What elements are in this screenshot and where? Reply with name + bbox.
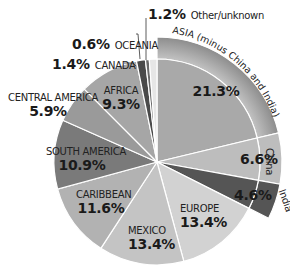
label-central-america: CENTRAL AMERICA 5.9% [8, 93, 88, 118]
south-america-name: SOUTH AMERICA [46, 147, 118, 157]
label-asia: 21.3% [188, 84, 244, 98]
asia-pct: 21.3% [188, 84, 244, 98]
oceania-name: OCEANIA [115, 40, 158, 51]
oceania-pct: 0.6% [72, 36, 110, 52]
label-oceania: 0.6% OCEANIA [72, 36, 158, 52]
south-america-pct: 10.9% [46, 158, 118, 172]
caribbean-pct: 11.6% [76, 201, 126, 215]
other-name: Other/unknown [191, 10, 264, 21]
china-name: China [264, 148, 274, 175]
label-canada: 1.4% CANADA [52, 56, 135, 72]
label-mexico: MEXICO 13.4% [128, 226, 175, 251]
label-caribbean: CARIBBEAN 11.6% [76, 190, 126, 215]
label-south-america: SOUTH AMERICA 10.9% [46, 147, 118, 172]
caribbean-name: CARIBBEAN [76, 190, 126, 200]
india-pct: 4.6% [234, 187, 272, 203]
label-europe: EUROPE 13.4% [180, 204, 227, 229]
mexico-name: MEXICO [128, 226, 175, 236]
canada-name: CANADA [95, 60, 136, 71]
europe-name: EUROPE [180, 204, 227, 214]
mexico-pct: 13.4% [128, 237, 175, 251]
africa-name: AFRICA [100, 86, 142, 96]
label-africa: AFRICA 9.3% [100, 86, 142, 111]
label-other: 1.2% Other/unknown [148, 6, 264, 22]
label-india-pct: 4.6% [234, 187, 272, 203]
europe-pct: 13.4% [180, 215, 227, 229]
canada-pct: 1.4% [52, 56, 90, 72]
other-pct: 1.2% [148, 6, 186, 22]
africa-pct: 9.3% [100, 97, 142, 111]
central-america-name: CENTRAL AMERICA [8, 93, 88, 103]
central-america-pct: 5.9% [8, 104, 88, 118]
